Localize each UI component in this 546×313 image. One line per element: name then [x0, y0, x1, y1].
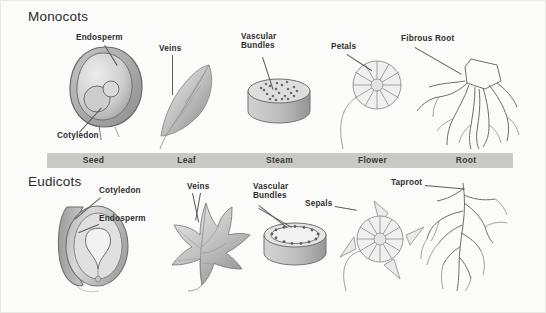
monocot-flower-illustration: [331, 57, 417, 151]
eudicot-stem-label-vascular-bundles: Vascular Bundles: [253, 183, 288, 201]
eudicot-seed-label-endosperm: Endosperm: [99, 215, 146, 224]
column-label-stem: Steam: [233, 153, 326, 168]
monocot-root-illustration: [409, 55, 525, 151]
monocot-seed-illustration: [59, 41, 159, 141]
column-label-root: Root: [419, 153, 513, 168]
monocot-leaf-label-veins: Veins: [159, 45, 181, 54]
eudicot-flower-label-sepals: Sepals: [305, 200, 333, 209]
monocots-heading: Monocots: [28, 9, 88, 24]
eudicots-heading: Eudicots: [28, 174, 81, 189]
eudicot-root-illustration: [411, 181, 527, 293]
monocot-stem-illustration: [244, 77, 314, 133]
column-label-leaf: Leaf: [140, 153, 233, 168]
monocot-leaf-illustration: [151, 59, 231, 151]
eudicot-stem-illustration: [259, 219, 331, 275]
monocot-seed-label-cotyledon: Cotyledon: [57, 132, 99, 141]
leader-monocot-veins: [172, 55, 173, 95]
monocot-seed-label-endosperm: Endosperm: [76, 34, 123, 43]
monocot-flower-label-petals: Petals: [331, 43, 356, 52]
eudicot-root-label-taproot: Taproot: [391, 179, 422, 188]
column-label-flower: Flower: [326, 153, 419, 168]
monocot-eudicot-comparison-figure: Monocots Eudicots Endosperm Cotyledon: [0, 0, 546, 313]
eudicot-seed-label-cotyledon: Cotyledon: [99, 187, 141, 196]
eudicot-leaf-illustration: [156, 197, 252, 291]
monocot-root-label-fibrous-root: Fibrous Root: [401, 35, 454, 44]
column-label-seed: Seed: [47, 153, 140, 168]
eudicot-leaf-label-veins: Veins: [187, 183, 209, 192]
monocot-stem-label-vascular-bundles: Vascular Bundles: [241, 33, 276, 51]
column-label-band: Seed Leaf Steam Flower Root: [47, 153, 513, 168]
